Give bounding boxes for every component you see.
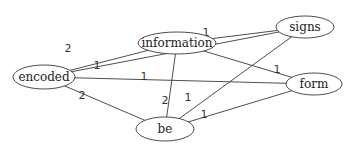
edge-weight-label: 1 [274, 63, 281, 76]
node-information[interactable]: information [138, 32, 216, 54]
edge-weight-label: 2 [79, 89, 86, 102]
node-label: be [158, 122, 173, 136]
node-label: information [141, 36, 212, 50]
edge-encoded-form [44, 77, 314, 84]
graph-canvas: 211211211 informationsignsencodedformbe [0, 0, 355, 150]
node-form[interactable]: form [286, 73, 342, 95]
edge-weight-label: 2 [65, 42, 72, 55]
edge-weight-label: 1 [141, 70, 148, 83]
node-label: encoded [18, 70, 70, 84]
node-label: signs [289, 20, 321, 34]
edge-information-be [165, 43, 177, 129]
node-encoded[interactable]: encoded [13, 65, 75, 89]
edge-weight-label: 1 [185, 91, 192, 104]
node-be[interactable]: be [136, 117, 194, 141]
edge-weight-label: 1 [201, 108, 208, 121]
edge-weight-label: 1 [94, 59, 101, 72]
node-label: form [300, 77, 329, 91]
nodes-layer: informationsignsencodedformbe [13, 16, 342, 141]
edge-weight-label: 2 [162, 94, 169, 107]
node-signs[interactable]: signs [276, 16, 334, 38]
